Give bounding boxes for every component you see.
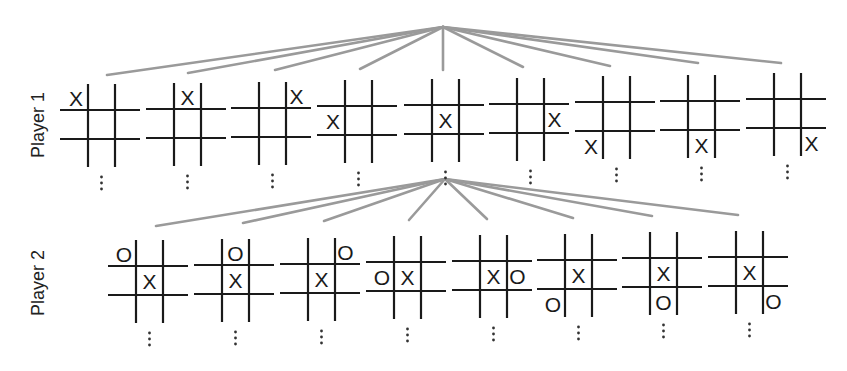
board-node: OX [280, 238, 360, 344]
board-node: OX [108, 240, 188, 346]
continuation-dots [148, 332, 151, 347]
o-mark: O [337, 241, 353, 264]
board-node: OX [366, 236, 446, 342]
x-mark: X [326, 110, 340, 133]
continuation-dots [529, 170, 532, 185]
board-node: X [317, 80, 397, 186]
board-node: X [231, 82, 311, 188]
level-label-player-2: Player 2 [28, 250, 48, 316]
continuation-dots [100, 176, 103, 191]
game-tree-diagram: XXXXXXXXXOXOXOXOXXOXOXOXO Player 1 Playe… [0, 0, 847, 371]
board-node: X [575, 76, 655, 182]
x-mark: X [547, 108, 561, 131]
x-mark: X [180, 86, 194, 109]
o-mark: O [227, 242, 243, 265]
o-mark: O [765, 290, 781, 313]
board-node: OX [194, 239, 274, 345]
board-node: X [60, 84, 140, 190]
tree-edge [243, 179, 445, 223]
x-mark: X [289, 85, 303, 108]
board-node: X [489, 78, 569, 184]
board-node: X [660, 75, 740, 181]
tree-boards: XXXXXXXXXOXOXOXOXXOXOXOXO [60, 73, 826, 346]
board-node: XO [537, 234, 617, 340]
x-mark: X [571, 264, 585, 287]
level-label-player-1: Player 1 [28, 92, 48, 158]
continuation-dots [615, 168, 618, 183]
x-mark: X [694, 134, 708, 157]
x-mark: X [804, 132, 818, 155]
x-mark: X [69, 87, 83, 110]
continuation-dots [662, 324, 665, 339]
board-node: XO [622, 232, 702, 338]
x-mark: X [486, 265, 500, 288]
game-tree-svg: XXXXXXXXXOXOXOXOXXOXOXOXO Player 1 Playe… [0, 0, 847, 371]
board-node: XO [452, 235, 532, 341]
x-mark: X [584, 135, 598, 158]
continuation-dots [577, 326, 580, 341]
continuation-dots [786, 165, 789, 180]
continuation-dots [492, 327, 495, 342]
x-mark: X [400, 266, 414, 289]
continuation-dots [748, 323, 751, 338]
x-mark: X [314, 268, 328, 291]
continuation-dots [320, 330, 323, 345]
continuation-dots [406, 328, 409, 343]
x-mark: X [228, 269, 242, 292]
board-node: X [146, 83, 226, 189]
board-node: XO [708, 231, 788, 337]
board-node: X [404, 79, 484, 185]
o-mark: O [545, 293, 561, 316]
tree-edge [107, 27, 443, 75]
continuation-dots [444, 171, 447, 186]
continuation-dots [357, 172, 360, 187]
o-mark: O [655, 291, 671, 314]
tree-edge [156, 179, 445, 226]
board-node: X [746, 73, 826, 179]
continuation-dots [271, 174, 274, 189]
tree-edge [188, 27, 443, 73]
x-mark: X [656, 262, 670, 285]
x-mark: X [142, 270, 156, 293]
o-mark: O [116, 243, 132, 266]
tree-edge [443, 27, 781, 63]
continuation-dots [186, 175, 189, 190]
tree-edge [445, 179, 738, 215]
continuation-dots [700, 167, 703, 182]
o-mark: O [509, 265, 525, 288]
level-labels: Player 1 Player 2 [28, 92, 48, 316]
x-mark: X [438, 109, 452, 132]
x-mark: X [742, 261, 756, 284]
o-mark: O [374, 266, 390, 289]
continuation-dots [234, 331, 237, 346]
